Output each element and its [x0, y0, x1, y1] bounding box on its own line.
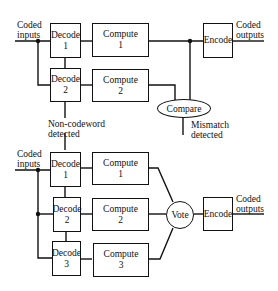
label-line: detected: [48, 129, 105, 139]
compare-label: Compare: [167, 104, 202, 114]
decode-2-box: Decode 2: [50, 68, 81, 102]
box-label: Decode: [51, 159, 80, 170]
label-line: outputs: [236, 204, 264, 214]
encode-box-top: Encode: [203, 23, 233, 58]
label-line: inputs: [17, 159, 42, 169]
vote-circle: Vote: [166, 201, 194, 229]
label-line: Mismatch: [191, 120, 229, 130]
box-index: 2: [118, 86, 123, 97]
label-line: Coded: [17, 149, 42, 159]
decode-2-box: Decode 2: [53, 197, 81, 232]
compute-2-box: Compute 2: [92, 198, 149, 231]
coded-inputs-label: Coded inputs: [17, 149, 42, 169]
compute-1-box: Compute 1: [92, 23, 149, 57]
box-index: 1: [118, 169, 123, 180]
coded-outputs-label: Coded outputs: [236, 194, 264, 214]
box-label: Decode: [51, 74, 80, 85]
compare-oval: Compare: [157, 99, 211, 118]
box-label: Decode: [51, 30, 80, 41]
box-label: Decode: [52, 248, 81, 259]
label-line: Non-codeword: [48, 119, 105, 129]
box-label: Compute: [103, 75, 138, 86]
box-label: Encode: [204, 35, 233, 46]
box-index: 3: [64, 259, 69, 270]
box-label: Compute: [103, 204, 138, 215]
box-index: 3: [119, 260, 124, 271]
box-label: Decode: [53, 204, 82, 215]
mismatch-detected-label: Mismatch detected: [191, 120, 229, 140]
vote-label: Vote: [171, 210, 188, 220]
junction-dot: [36, 212, 40, 216]
junction-dot: [188, 39, 192, 43]
box-label: Compute: [104, 249, 139, 260]
box-index: 1: [118, 40, 123, 51]
box-index: 1: [63, 170, 68, 181]
compute-1-box: Compute 1: [92, 152, 149, 185]
label-line: Coded: [236, 20, 264, 30]
box-index: 2: [118, 215, 123, 226]
label-line: Coded: [236, 194, 264, 204]
box-label: Compute: [103, 158, 138, 169]
compute-3-box: Compute 3: [93, 243, 149, 277]
label-line: inputs: [17, 30, 42, 40]
box-index: 2: [63, 85, 68, 96]
box-label: Compute: [103, 29, 138, 40]
box-label: Encode: [204, 209, 233, 220]
label-line: Coded: [17, 20, 42, 30]
coded-outputs-label: Coded outputs: [236, 20, 264, 40]
noncodeword-detected-label: Non-codeword detected: [48, 119, 105, 139]
decode-1-box: Decode 1: [50, 23, 81, 58]
decode-1-box: Decode 1: [50, 152, 81, 187]
encode-box-bottom: Encode: [203, 197, 233, 231]
compute-2-box: Compute 2: [92, 69, 149, 102]
decode-3-box: Decode 3: [52, 241, 81, 276]
box-index: 1: [63, 41, 68, 52]
label-line: detected: [191, 130, 229, 140]
label-line: outputs: [236, 30, 264, 40]
coded-inputs-label: Coded inputs: [17, 20, 42, 40]
box-index: 2: [65, 215, 70, 226]
